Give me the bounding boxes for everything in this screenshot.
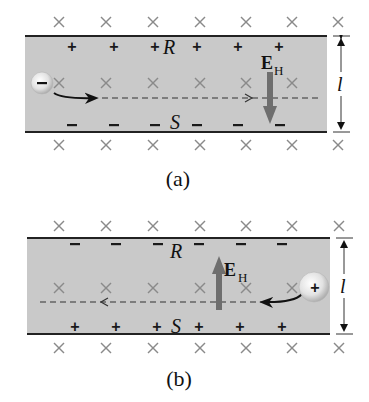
hall-effect-diagram: + + + + + + R S — [0, 0, 369, 402]
electron-particle — [31, 72, 53, 94]
x-mark-icon — [101, 221, 111, 231]
x-mark-icon — [101, 140, 111, 150]
charge-sign: + — [70, 318, 79, 335]
hall-field-subscript-a: H — [274, 63, 283, 78]
proton-particle: + — [299, 272, 329, 302]
caption-b: (b) — [166, 366, 192, 391]
charge-sign: + — [277, 318, 286, 335]
charge-sign: + — [235, 318, 244, 335]
x-mark-icon — [333, 17, 343, 27]
panel-a: + + + + + + R S — [25, 17, 350, 191]
x-mark-icon — [195, 17, 205, 27]
charge-sign: + — [194, 318, 203, 335]
panel-b: R + + + + + + S + E H — [27, 221, 353, 391]
x-mark-icon — [195, 221, 205, 231]
x-mark-icon — [241, 140, 251, 150]
charge-sign — [192, 124, 202, 126]
charge-sign — [67, 124, 77, 126]
x-mark-icon — [287, 221, 297, 231]
x-mark-icon — [148, 140, 158, 150]
charge-sign — [194, 243, 204, 245]
plus-icon: + — [310, 279, 319, 296]
magnetic-field-markers-top-b — [54, 221, 344, 231]
surface-label-r-a: R — [162, 36, 175, 58]
surface-label-r-b: R — [169, 240, 182, 262]
charge-sign: + — [67, 38, 76, 55]
x-mark-icon — [287, 17, 297, 27]
hall-field-label-a: E — [261, 53, 273, 73]
charge-sign: + — [274, 38, 283, 55]
minus-icon — [37, 82, 47, 84]
x-mark-icon — [333, 140, 343, 150]
hall-field-subscript-b: H — [238, 270, 247, 285]
x-mark-icon — [54, 140, 64, 150]
x-mark-icon — [287, 343, 297, 353]
charge-sign: + — [150, 38, 159, 55]
magnetic-field-markers-bottom-a — [54, 140, 343, 150]
x-mark-icon — [241, 343, 251, 353]
caption-a: (a) — [166, 166, 190, 191]
dimension-label-l-a: l — [337, 73, 343, 95]
x-mark-icon — [241, 221, 251, 231]
charge-sign: + — [152, 318, 161, 335]
x-mark-icon — [195, 343, 205, 353]
x-mark-icon — [101, 17, 111, 27]
magnetic-field-markers-top-a — [54, 17, 343, 27]
x-mark-icon — [287, 140, 297, 150]
charge-sign: + — [111, 318, 120, 335]
surface-label-s-b: S — [171, 315, 181, 337]
x-mark-icon — [148, 221, 158, 231]
surface-label-s-a: S — [170, 111, 180, 133]
charge-sign — [277, 243, 287, 245]
x-mark-icon — [148, 343, 158, 353]
charge-sign — [111, 243, 121, 245]
charge-sign — [70, 243, 80, 245]
hall-field-label-b: E — [224, 260, 236, 280]
x-mark-icon — [241, 17, 251, 27]
magnetic-field-markers-bottom-b — [54, 343, 344, 353]
x-mark-icon — [148, 17, 158, 27]
x-mark-icon — [101, 343, 111, 353]
charge-sign — [150, 124, 160, 126]
dimension-label-l-b: l — [340, 275, 346, 297]
x-mark-icon — [54, 221, 64, 231]
x-mark-icon — [54, 17, 64, 27]
charge-sign — [275, 124, 285, 126]
charge-sign: + — [109, 38, 118, 55]
x-mark-icon — [334, 343, 344, 353]
charge-sign — [109, 124, 119, 126]
charge-sign — [153, 243, 163, 245]
x-mark-icon — [334, 221, 344, 231]
charge-sign — [236, 243, 246, 245]
x-mark-icon — [195, 140, 205, 150]
x-mark-icon — [54, 343, 64, 353]
charge-sign: + — [233, 38, 242, 55]
charge-sign: + — [192, 38, 201, 55]
charge-sign — [233, 124, 243, 126]
